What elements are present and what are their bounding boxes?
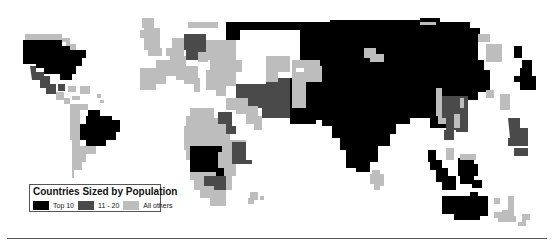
map-legend: Countries Sized by Population Top 10 11 … [29, 184, 161, 212]
legend-title: Countries Sized by Population [33, 186, 177, 197]
legend-label-11-20: 11 - 20 [98, 202, 119, 209]
legend-label-top10: Top 10 [53, 202, 74, 209]
legend-swatch-top10 [33, 201, 49, 210]
legend-swatch-11-20 [78, 201, 94, 210]
legend-swatch-others [123, 201, 139, 210]
legend-row: Top 10 11 - 20 All others [33, 200, 177, 210]
legend-label-others: All others [143, 202, 172, 209]
south-america [70, 104, 120, 178]
north-america [23, 34, 104, 108]
bottom-rule [7, 238, 547, 239]
southeast-asia [428, 118, 530, 226]
